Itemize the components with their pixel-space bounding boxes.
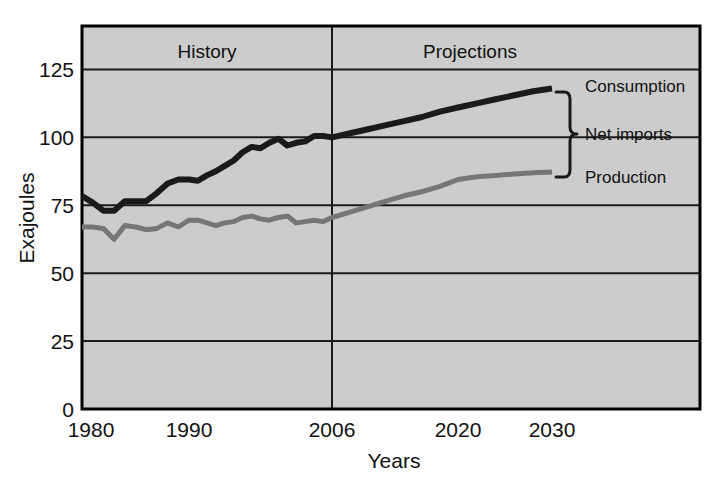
series-label-net-imports: Net imports <box>585 125 672 144</box>
region-label-projections: Projections <box>423 41 517 62</box>
x-tick-2006: 2006 <box>309 418 356 441</box>
y-tick-125: 125 <box>39 58 74 81</box>
x-tick-1980: 1980 <box>68 418 115 441</box>
energy-chart: 0255075100125 19801990200620202030 Exajo… <box>0 0 720 481</box>
region-label-history: History <box>177 41 237 62</box>
x-tick-2030: 2030 <box>529 418 576 441</box>
series-label-consumption: Consumption <box>585 77 685 96</box>
y-tick-75: 75 <box>51 194 74 217</box>
x-tick-1990: 1990 <box>166 418 213 441</box>
series-label-production: Production <box>585 168 666 187</box>
y-tick-100: 100 <box>39 126 74 149</box>
x-axis-title: Years <box>368 449 421 472</box>
y-axis-title: Exajoules <box>15 172 38 263</box>
y-tick-25: 25 <box>51 330 74 353</box>
y-tick-50: 50 <box>51 262 74 285</box>
x-tick-2020: 2020 <box>435 418 482 441</box>
